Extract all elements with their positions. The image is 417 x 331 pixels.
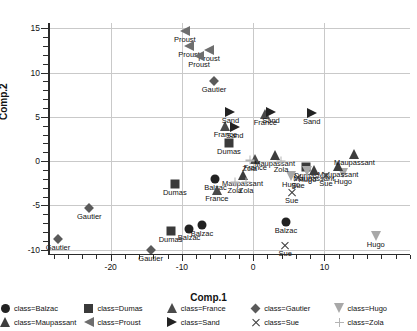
point-label: Balzac [191, 229, 214, 238]
legend-label: class=France [181, 304, 226, 313]
y-tick [41, 73, 48, 74]
legend-item-gautier[interactable]: class=Gautier [250, 303, 333, 314]
point-label: Balzac [275, 226, 298, 235]
point-label: Gautier [77, 212, 102, 221]
point-label: Sue [285, 196, 298, 205]
legend-label: class=Maupassant [14, 318, 76, 327]
point-label: Zola [239, 186, 254, 195]
data-point-gautier[interactable] [54, 236, 61, 243]
x-tick-label: -20 [105, 262, 117, 272]
point-label: Maupassant [334, 158, 375, 167]
x-tick-minor [239, 255, 240, 259]
legend-label: class=Gautier [264, 304, 310, 313]
data-point-gautier[interactable] [147, 246, 154, 253]
x-tick [111, 255, 112, 261]
x-tick-minor [296, 255, 297, 259]
legend-item-france[interactable]: class=France [167, 303, 250, 314]
legend-symbol-x-icon [250, 317, 261, 328]
x-tick-minor [82, 255, 83, 259]
legend-item-dumas[interactable]: class=Dumas [83, 303, 166, 314]
point-label: France [205, 194, 228, 203]
x-tick-minor [367, 255, 368, 259]
x-tick [253, 255, 254, 261]
x-tick-minor [339, 255, 340, 259]
legend-label: class=Hugo [348, 304, 387, 313]
x-tick-minor [267, 255, 268, 259]
x-tick [182, 255, 183, 261]
legend-symbol-diamond-icon [250, 303, 261, 314]
gridline-vertical [324, 23, 325, 255]
y-axis-line [48, 23, 50, 255]
y-tick-label: 15 [18, 23, 40, 33]
legend-item-zola[interactable]: class=Zola [334, 317, 417, 328]
legend-label: class=Sue [264, 318, 299, 327]
legend-item-sue[interactable]: class=Sue [250, 317, 333, 328]
legend: class=Balzacclass=Dumasclass=Franceclass… [0, 301, 417, 329]
gridline-horizontal [48, 73, 410, 74]
legend-symbol-triangle-right-icon [167, 317, 178, 328]
x-axis-line [48, 254, 410, 256]
x-tick-label: 10 [320, 262, 329, 272]
x-tick-label: 0 [251, 262, 256, 272]
x-tick-minor [353, 255, 354, 259]
x-tick-minor [196, 255, 197, 259]
gridline-horizontal [48, 250, 410, 251]
data-point-gautier[interactable] [211, 77, 218, 84]
marker-plus [335, 318, 344, 327]
point-label: Dumas [159, 235, 183, 244]
marker-square [84, 304, 93, 313]
point-label: Gautier [202, 85, 227, 94]
x-tick-label: -10 [176, 262, 188, 272]
legend-label: class=Dumas [97, 304, 142, 313]
legend-label: class=Proust [97, 318, 140, 327]
marker-triangle-up [0, 317, 10, 327]
point-label: Sand [262, 116, 280, 125]
legend-row: class=Maupassantclass=Proustclass=Sandcl… [0, 315, 417, 329]
legend-item-sand[interactable]: class=Sand [167, 317, 250, 328]
x-tick-minor [410, 255, 411, 259]
point-label: Dumas [217, 147, 241, 156]
legend-symbol-plus-icon [334, 317, 345, 328]
legend-symbol-triangle-left-icon [83, 317, 94, 328]
x-tick-minor [68, 255, 69, 259]
legend-item-hugo[interactable]: class=Hugo [334, 303, 417, 314]
marker-triangle-left [84, 317, 94, 327]
y-tick-label: -10 [18, 245, 40, 255]
y-tick [41, 117, 48, 118]
scatter-plot-figure: Comp.1 Comp.2 BalzacBalzacBalzacBalzacDu… [0, 0, 417, 331]
y-tick-label: 5 [18, 112, 40, 122]
x-tick-minor [310, 255, 311, 259]
legend-item-proust[interactable]: class=Proust [83, 317, 166, 328]
gridline-vertical [253, 23, 254, 255]
marker-triangle-down [334, 303, 344, 313]
x-tick-minor [96, 255, 97, 259]
y-tick-label: -5 [18, 200, 40, 210]
legend-label: class=Zola [348, 318, 384, 327]
x-tick-minor [168, 255, 169, 259]
data-point-gautier[interactable] [86, 205, 93, 212]
marker-triangle-right [167, 317, 177, 327]
legend-item-balzac[interactable]: class=Balzac [0, 303, 83, 314]
gridline-horizontal [48, 205, 410, 206]
gridline-vertical [111, 23, 112, 255]
legend-symbol-triangle-up-icon [0, 317, 11, 328]
legend-symbol-circle-icon [0, 303, 11, 314]
legend-symbol-square-icon [83, 303, 94, 314]
x-tick-minor [396, 255, 397, 259]
x-tick-minor [54, 255, 55, 259]
point-label: Gautier [138, 254, 163, 263]
y-axis-title: Comp.2 [0, 83, 9, 120]
point-label: Sand [226, 131, 244, 140]
marker-triangle-up [167, 303, 177, 313]
x-tick [324, 255, 325, 261]
point-label: Dumas [163, 188, 187, 197]
marker-x [251, 317, 261, 327]
legend-item-maupassant[interactable]: class=Maupassant [0, 317, 83, 328]
legend-symbol-triangle-up-icon [167, 303, 178, 314]
plot-area: BalzacBalzacBalzacBalzacDumasDumasDumasD… [48, 23, 410, 255]
point-label: Sue [319, 179, 332, 188]
point-label: Hugo [367, 240, 385, 249]
x-tick-minor [381, 255, 382, 259]
marker-circle [1, 304, 10, 313]
y-tick [41, 28, 48, 29]
